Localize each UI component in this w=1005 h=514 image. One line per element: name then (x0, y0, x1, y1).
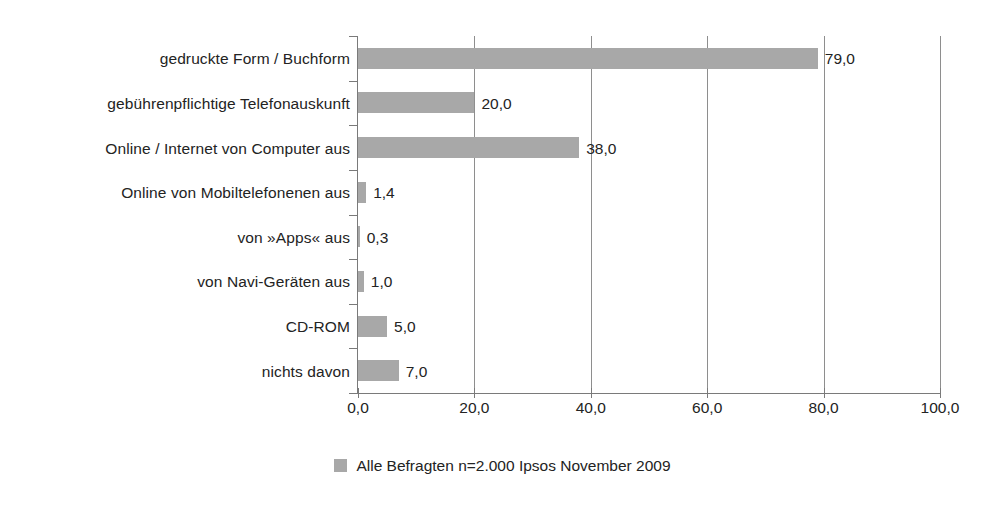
legend-item: Alle Befragten n=2.000 Ipsos November 20… (334, 458, 670, 474)
plot-area: 79,020,038,01,40,31,05,07,0 (358, 36, 940, 393)
bar (358, 316, 387, 337)
y-axis-tick (349, 348, 358, 349)
gridline (824, 36, 825, 393)
bar (358, 137, 579, 158)
bar (358, 48, 818, 69)
x-axis-tick-labels: 0,020,040,060,080,0100,0 (358, 400, 940, 424)
x-axis-tick-label: 20,0 (459, 400, 489, 416)
x-axis-tick-label: 0,0 (347, 400, 369, 416)
bar-chart: gedruckte Form / Buchformgebührenpflicht… (0, 0, 1005, 514)
category-label: nichts davon (0, 364, 350, 380)
legend-swatch-icon (334, 459, 347, 472)
x-axis-tick (591, 388, 592, 398)
bar-value-label: 1,0 (371, 274, 393, 290)
x-axis-line (349, 393, 940, 394)
y-axis-tick (349, 81, 358, 82)
y-axis-tick (349, 259, 358, 260)
bar-value-label: 38,0 (586, 141, 616, 157)
bar (358, 92, 474, 113)
x-axis-tick (940, 388, 941, 398)
x-axis-tick-label: 80,0 (809, 400, 839, 416)
x-axis-tick (707, 388, 708, 398)
gridline (591, 36, 592, 393)
category-label: Online von Mobiltelefonenen aus (0, 185, 350, 201)
bar-value-label: 20,0 (481, 96, 511, 112)
legend-label: Alle Befragten n=2.000 Ipsos November 20… (356, 458, 670, 474)
bar-value-label: 0,3 (367, 230, 389, 246)
x-axis-tick (358, 388, 359, 398)
bar-value-label: 7,0 (406, 364, 428, 380)
x-axis-tick (474, 388, 475, 398)
bar (358, 360, 399, 381)
bar-value-label: 79,0 (825, 51, 855, 67)
category-label: Online / Internet von Computer aus (0, 141, 350, 157)
category-label: von Navi-Geräten aus (0, 274, 350, 290)
gridline (940, 36, 941, 393)
bar (358, 226, 360, 247)
x-axis-tick-label: 60,0 (692, 400, 722, 416)
x-axis-tick-label: 40,0 (576, 400, 606, 416)
y-axis-tick (349, 393, 358, 394)
category-label: von »Apps« aus (0, 230, 350, 246)
category-label: gedruckte Form / Buchform (0, 51, 350, 67)
y-axis-tick (349, 125, 358, 126)
bar-value-label: 5,0 (394, 319, 416, 335)
bar (358, 182, 366, 203)
bar-value-label: 1,4 (373, 185, 395, 201)
y-axis-tick (349, 304, 358, 305)
chart-legend: Alle Befragten n=2.000 Ipsos November 20… (0, 458, 1005, 474)
gridline (474, 36, 475, 393)
y-axis-tick (349, 36, 358, 37)
y-axis-tick (349, 215, 358, 216)
y-axis-tick (349, 170, 358, 171)
category-label: CD-ROM (0, 319, 350, 335)
gridline (707, 36, 708, 393)
category-axis-labels: gedruckte Form / Buchformgebührenpflicht… (0, 36, 350, 393)
x-axis-tick-label: 100,0 (921, 400, 960, 416)
bar (358, 271, 364, 292)
x-axis-tick (824, 388, 825, 398)
category-label: gebührenpflichtige Telefonauskunft (0, 96, 350, 112)
